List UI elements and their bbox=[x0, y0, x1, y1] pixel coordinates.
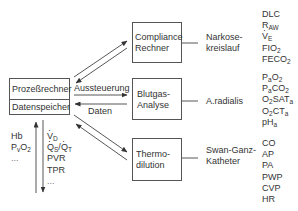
param-hr: HR bbox=[262, 194, 283, 205]
param-paco2: PaCO2 bbox=[262, 83, 293, 94]
param-pvr: PVR bbox=[47, 153, 72, 164]
arrow-from-thermo bbox=[76, 124, 127, 160]
param-pao2: PaO2 bbox=[262, 72, 293, 83]
arrow-to-compliance bbox=[74, 41, 127, 77]
thermodilution-parameters: CO AP PA PWP CVP HR bbox=[262, 138, 283, 205]
data-arrow-label: Daten bbox=[88, 106, 112, 117]
param-ap: AP bbox=[262, 149, 283, 160]
source-radialis: A.radialis bbox=[206, 96, 243, 107]
data-storage-label: Datenspeicher bbox=[12, 102, 70, 113]
source-narkose-1: Narkose- bbox=[206, 32, 243, 43]
process-computer-label: Prozeßrechner bbox=[12, 84, 72, 95]
param-cvp: CVP bbox=[262, 183, 283, 194]
param-feco2: FECO2 bbox=[262, 54, 291, 65]
arrow-to-thermo bbox=[74, 115, 127, 152]
param-co: CO bbox=[262, 138, 283, 149]
param-pa: PA bbox=[262, 160, 283, 171]
input-parameters: Hb PvO2 ... bbox=[11, 131, 31, 165]
blood-gas-label-2: Analyse bbox=[137, 100, 169, 111]
control-arrow-label: Aussteuerung bbox=[74, 83, 130, 94]
thermodilution-label-2: dilution bbox=[136, 160, 165, 171]
box-divider bbox=[10, 99, 69, 100]
source-swan-ganz-2: Katheter bbox=[206, 156, 240, 167]
source-swan-ganz-1: Swan-Ganz- bbox=[206, 145, 256, 156]
param-pwp: PWP bbox=[262, 172, 283, 183]
compliance-label-2: Rechner bbox=[135, 43, 169, 54]
thermodilution-label-1: Thermo- bbox=[136, 149, 170, 160]
compliance-label-1: Compliance bbox=[135, 32, 183, 43]
compliance-parameters: DLC RAW VE FIO2 FECO2 bbox=[262, 9, 291, 65]
param-fio2: FIO2 bbox=[262, 43, 291, 54]
param-o2sat: O2SATa bbox=[262, 94, 293, 105]
param-ph: pHa bbox=[262, 117, 293, 128]
blood-gas-parameters: PaO2 PaCO2 O2SATa O2CTa pHa bbox=[262, 72, 293, 128]
param-ve: VE bbox=[262, 31, 291, 42]
param-pvo2: PvO2 bbox=[11, 142, 31, 153]
param-hb: Hb bbox=[11, 131, 31, 142]
param-input-more: ... bbox=[11, 153, 31, 164]
param-o2ct: O2CTa bbox=[262, 106, 293, 117]
output-parameters: VD QS/QT PVR TPR ... bbox=[47, 131, 72, 187]
arrow-from-compliance bbox=[76, 48, 127, 83]
param-qs-qt: QS/QT bbox=[47, 142, 72, 153]
param-output-more: ... bbox=[47, 176, 72, 187]
param-raw: RAW bbox=[262, 20, 291, 31]
blood-gas-label-1: Blutgas- bbox=[137, 89, 170, 100]
param-tpr: TPR bbox=[47, 165, 72, 176]
param-dlc: DLC bbox=[262, 9, 291, 20]
source-narkose-2: kreislauf bbox=[206, 43, 240, 54]
